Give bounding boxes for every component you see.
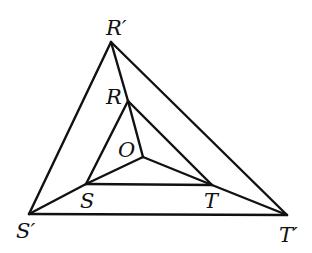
- edge-tprime-t: [212, 185, 287, 215]
- edge-tprime-rprime: [111, 42, 287, 215]
- label-o: O: [118, 138, 135, 162]
- edge-t-r: [128, 101, 212, 185]
- label-s-prime: S′: [16, 219, 35, 243]
- geometry-figure: R′ R O S T S′ T′: [0, 0, 312, 253]
- edge-o-t: [143, 157, 212, 185]
- label-t-prime: T′: [279, 223, 298, 247]
- edge-rprime-sprime: [29, 42, 111, 214]
- edge-sprime-tprime: [29, 214, 287, 215]
- edge-s-t: [86, 184, 212, 185]
- edge-sprime-s: [29, 184, 86, 214]
- label-t: T: [204, 189, 220, 213]
- label-r: R: [105, 85, 122, 109]
- label-s: S: [80, 189, 94, 213]
- label-r-prime: R′: [105, 16, 127, 40]
